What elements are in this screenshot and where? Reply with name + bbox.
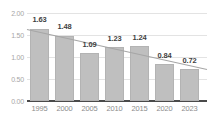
x-tick-label-2000: 2000: [52, 104, 78, 113]
x-tick-label-1995: 1995: [27, 104, 53, 113]
data-label-2015: 1.24: [127, 34, 153, 42]
x-tick-label-2020: 2020: [152, 104, 178, 113]
bar-2023[interactable]: [180, 69, 199, 101]
data-label-2005: 1.09: [77, 41, 103, 49]
x-axis-labels: 1995 2000 2005 2010 2015 2020 2023: [27, 104, 207, 118]
plot-area: 1.63 1.48 1.09 1.23 1.24 0.84 0.72: [27, 13, 207, 101]
bar-2015[interactable]: [130, 46, 149, 101]
bar-2005[interactable]: [80, 53, 99, 101]
bar-chart: 2.00 1.50 1.00 0.50 0.00 1.63 1.48 1.09 …: [0, 0, 210, 127]
y-tick-label: 0.50: [2, 76, 24, 83]
y-tick-label: 2.00: [2, 10, 24, 17]
bar-2020[interactable]: [155, 64, 174, 101]
y-tick-label: 1.50: [2, 32, 24, 39]
x-tick-label-2015: 2015: [127, 104, 153, 113]
data-label-2023: 0.72: [177, 57, 203, 65]
x-tick-label-2010: 2010: [102, 104, 128, 113]
x-tick-label-2023: 2023: [177, 104, 203, 113]
x-tick-label-2005: 2005: [77, 104, 103, 113]
data-label-2000: 1.48: [52, 23, 78, 31]
bar-1995[interactable]: [30, 29, 49, 101]
bar-2010[interactable]: [105, 47, 124, 101]
data-label-2010: 1.23: [102, 35, 128, 43]
data-label-1995: 1.63: [27, 16, 53, 24]
y-tick-label: 1.00: [2, 54, 24, 61]
gridline: [27, 13, 207, 14]
y-tick-label: 0.00: [2, 98, 24, 105]
data-label-2020: 0.84: [152, 52, 178, 60]
bar-2000[interactable]: [55, 36, 74, 101]
